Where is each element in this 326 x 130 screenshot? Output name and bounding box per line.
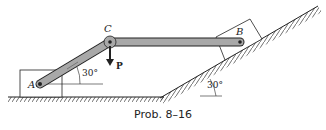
pin-b [238, 40, 242, 44]
figure-caption: Prob. 8–16 [0, 108, 326, 121]
incline-surface [160, 6, 322, 104]
label-b: B [235, 26, 243, 37]
label-force-p: P [116, 61, 123, 71]
force-arrow-p [106, 46, 114, 66]
label-a: A [27, 79, 35, 90]
link-ac [40, 42, 110, 84]
pin-a [38, 82, 42, 86]
label-angle-incline: 30° [207, 80, 223, 90]
ground [8, 97, 164, 102]
label-angle-link: 30° [82, 68, 98, 78]
label-c: C [104, 23, 112, 34]
